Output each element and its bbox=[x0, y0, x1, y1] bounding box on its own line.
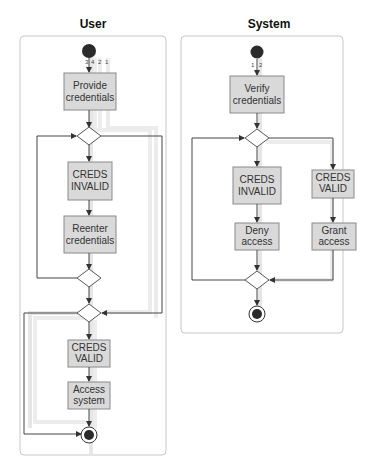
user-final-node bbox=[81, 427, 97, 443]
svg-text:system: system bbox=[73, 395, 105, 406]
system-final-node bbox=[249, 306, 265, 322]
action-creds-valid: CREDS VALID bbox=[68, 340, 110, 367]
user-swimlane: User 3 4 2 1 Provide credentials bbox=[20, 17, 166, 455]
svg-text:Access: Access bbox=[73, 384, 105, 395]
svg-text:INVALID: INVALID bbox=[238, 186, 276, 197]
system-lane-title: System bbox=[248, 17, 291, 31]
action-creds-invalid: CREDS INVALID bbox=[68, 162, 112, 200]
action-deny-access: Deny access bbox=[235, 223, 279, 250]
svg-text:Verify: Verify bbox=[244, 83, 269, 94]
svg-text:credentials: credentials bbox=[66, 92, 114, 103]
user-lane-title: User bbox=[80, 17, 107, 31]
svg-text:CREDS: CREDS bbox=[315, 172, 350, 183]
action-provide-credentials: Provide credentials bbox=[64, 73, 116, 110]
user-initial-node bbox=[82, 44, 96, 58]
system-swimlane: System 1 2 Verify credentials CREDS bbox=[181, 17, 356, 333]
svg-text:CREDS: CREDS bbox=[71, 342, 106, 353]
action-creds-invalid: CREDS INVALID bbox=[233, 167, 281, 204]
action-access-system: Access system bbox=[68, 382, 110, 409]
svg-text:VALID: VALID bbox=[319, 183, 347, 194]
action-verify-credentials: Verify credentials bbox=[230, 76, 284, 113]
svg-text:CREDS: CREDS bbox=[72, 169, 107, 180]
svg-text:Provide: Provide bbox=[73, 80, 107, 91]
svg-text:access: access bbox=[318, 236, 349, 247]
svg-text:access: access bbox=[241, 236, 272, 247]
svg-text:CREDS: CREDS bbox=[239, 174, 274, 185]
svg-text:Reenter: Reenter bbox=[72, 223, 108, 234]
action-reenter-credentials: Reenter credentials bbox=[64, 216, 116, 253]
svg-text:credentials: credentials bbox=[66, 235, 114, 246]
svg-text:Deny: Deny bbox=[245, 225, 268, 236]
activity-diagram: User 3 4 2 1 Provide credentials bbox=[0, 0, 376, 473]
svg-text:credentials: credentials bbox=[233, 95, 281, 106]
svg-text:VALID: VALID bbox=[75, 353, 103, 364]
action-grant-access: Grant access bbox=[312, 223, 356, 250]
svg-text:INVALID: INVALID bbox=[71, 181, 109, 192]
action-creds-valid: CREDS VALID bbox=[312, 170, 354, 198]
svg-text:Grant: Grant bbox=[321, 225, 346, 236]
system-initial-node bbox=[251, 46, 264, 59]
